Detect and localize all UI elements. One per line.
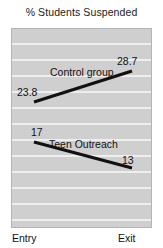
axis-label-exit: Exit	[118, 232, 136, 244]
plot-area: Control group 23.8 28.7 Teen Outreach 17…	[11, 28, 152, 228]
value-label-control-exit: 28.7	[117, 56, 137, 67]
value-label-teen-exit: 13	[122, 155, 134, 166]
chart-container: % Students Suspended Control group 23.8 …	[0, 0, 163, 248]
series-label-teen-outreach: Teen Outreach	[49, 139, 118, 150]
value-label-teen-entry: 17	[31, 127, 43, 138]
value-label-control-entry: 23.8	[17, 87, 37, 98]
series-label-control-group: Control group	[50, 67, 114, 78]
axis-label-entry: Entry	[12, 232, 37, 244]
chart-title: % Students Suspended	[0, 6, 163, 18]
